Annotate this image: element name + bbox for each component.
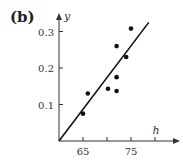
regression-line: [59, 22, 149, 141]
y-tick-label: 0.1: [38, 100, 54, 111]
y-axis-arrow-icon: [56, 13, 62, 20]
data-point: [86, 91, 91, 96]
data-point: [106, 87, 111, 92]
data-point: [124, 55, 129, 60]
y-tick-label: 0.3: [38, 27, 54, 38]
y-tick-label: 0.2: [38, 63, 54, 74]
data-point: [114, 75, 119, 80]
data-point: [129, 26, 134, 31]
data-point: [114, 44, 119, 49]
x-axis-arrow-icon: [173, 138, 180, 144]
x-tick-label: 65: [77, 146, 90, 157]
x-tick-label: 75: [125, 146, 138, 157]
data-point: [114, 89, 119, 94]
y-axis-label: y: [63, 10, 71, 23]
data-point: [81, 111, 86, 116]
x-axis-label: h: [153, 124, 160, 137]
scatter-plot: hy65750.10.20.3: [0, 0, 183, 160]
